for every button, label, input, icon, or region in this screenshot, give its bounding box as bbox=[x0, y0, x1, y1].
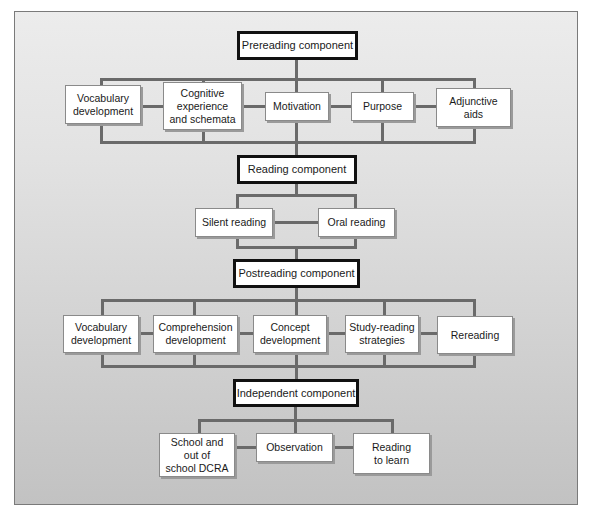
connector bbox=[101, 299, 476, 302]
prereading-item-vocabulary: Vocabulary development bbox=[65, 85, 141, 124]
independent-component-box: Independent component bbox=[233, 379, 359, 407]
prereading-item-adjunctive: Adjunctive aids bbox=[436, 88, 511, 127]
connector bbox=[198, 419, 394, 422]
postreading-item-study-reading: Study-reading strategies bbox=[345, 315, 419, 353]
reading-item-oral: Oral reading bbox=[318, 208, 395, 237]
postreading-item-rereading: Rereading bbox=[437, 316, 513, 354]
connector bbox=[101, 365, 476, 368]
prereading-item-motivation: Motivation bbox=[265, 92, 329, 121]
connector bbox=[272, 221, 320, 224]
reading-item-silent: Silent reading bbox=[195, 208, 273, 237]
postreading-item-vocabulary: Vocabulary development bbox=[63, 315, 139, 353]
independent-item-school-dcra: School and out of school DCRA bbox=[159, 433, 235, 477]
postreading-item-concept: Concept development bbox=[253, 315, 327, 353]
independent-item-observation: Observation bbox=[256, 433, 333, 462]
connector bbox=[295, 246, 298, 260]
prereading-component-box: Prereading component bbox=[237, 31, 358, 60]
connector bbox=[198, 419, 201, 434]
prereading-item-purpose: Purpose bbox=[351, 92, 414, 121]
prereading-item-cognitive: Cognitive experience and schemata bbox=[163, 82, 242, 130]
reading-component-box: Reading component bbox=[237, 155, 357, 184]
postreading-item-comprehension: Comprehension development bbox=[153, 315, 238, 353]
independent-item-reading-to-learn: Reading to learn bbox=[353, 433, 430, 474]
connector bbox=[391, 419, 394, 434]
postreading-component-box: Postreading component bbox=[233, 259, 360, 288]
connector bbox=[100, 141, 476, 144]
connector bbox=[100, 78, 476, 81]
connector bbox=[236, 194, 357, 197]
